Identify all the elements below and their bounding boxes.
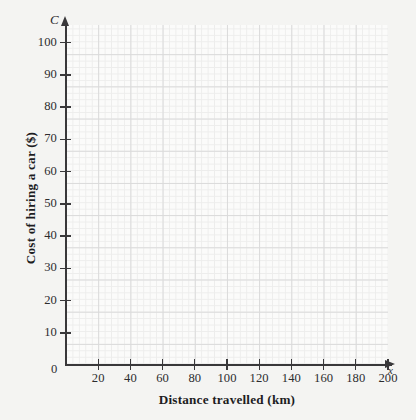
x-tick-mark (130, 359, 131, 370)
x-tick-mark (98, 359, 99, 370)
x-tick-label: 200 (368, 371, 408, 386)
x-tick-mark (226, 359, 227, 370)
x-tick-mark (291, 359, 292, 370)
x-tick-mark (259, 359, 260, 370)
y-tick-mark (60, 235, 71, 236)
x-axis-title: Distance travelled (km) (66, 392, 388, 408)
x-tick-mark (323, 359, 324, 370)
x-axis-line (66, 364, 392, 366)
y-tick-label: 10 (0, 325, 57, 340)
x-tick-mark (194, 359, 195, 370)
y-tick-mark (60, 171, 71, 172)
x-tick-mark (387, 359, 388, 370)
y-tick-label: 100 (0, 35, 57, 50)
y-tick-mark (60, 332, 71, 333)
x-tick-mark (162, 359, 163, 370)
graph-figure: C x 102030405060708090100 20406080100120… (0, 0, 416, 420)
y-tick-mark (60, 42, 71, 43)
y-axis-symbol: C (50, 12, 59, 28)
y-tick-mark (60, 139, 71, 140)
y-tick-mark (60, 203, 71, 204)
y-tick-mark (60, 268, 71, 269)
y-tick-mark (60, 300, 71, 301)
y-tick-mark (60, 106, 71, 107)
x-axis-origin-label: 0 (51, 362, 57, 377)
y-axis-title: Cost of hiring a car ($) (23, 78, 39, 318)
y-axis-arrow-icon (61, 16, 69, 26)
x-tick-mark (355, 359, 356, 370)
y-tick-mark (60, 74, 71, 75)
plot-grid-area (66, 25, 388, 365)
